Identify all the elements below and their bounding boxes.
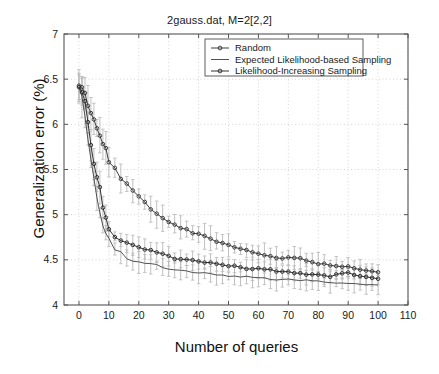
svg-text:4: 4 <box>52 299 58 311</box>
svg-text:50: 50 <box>223 309 235 321</box>
legend-item-label: Likelihood-Increasing Sampling <box>235 65 367 76</box>
plot-area: 010203040506070809010011044.555.566.57 R… <box>0 0 439 374</box>
svg-text:110: 110 <box>400 309 417 321</box>
legend-item-label: Random <box>235 42 271 53</box>
svg-text:5: 5 <box>52 208 58 220</box>
svg-text:10: 10 <box>103 309 115 321</box>
svg-text:7: 7 <box>52 28 58 40</box>
legend-item-label: Expected Likelihood-based Sampling <box>235 54 391 65</box>
y-axis-label: Generalization error (%) <box>30 29 47 289</box>
svg-text:40: 40 <box>193 309 205 321</box>
svg-text:6: 6 <box>52 118 58 130</box>
svg-text:0: 0 <box>76 309 82 321</box>
svg-text:70: 70 <box>283 309 295 321</box>
figure-canvas: 2gauss.dat, M=2[2,2] 0102030405060708090… <box>0 0 439 374</box>
svg-text:20: 20 <box>133 309 145 321</box>
error-bars <box>77 70 380 295</box>
svg-text:60: 60 <box>253 309 265 321</box>
svg-text:80: 80 <box>312 309 324 321</box>
x-axis-label: Number of queries <box>64 338 409 355</box>
svg-text:30: 30 <box>163 309 175 321</box>
svg-text:100: 100 <box>369 309 387 321</box>
svg-text:90: 90 <box>342 309 354 321</box>
legend-box: RandomExpected Likelihood-based Sampling… <box>205 39 391 76</box>
